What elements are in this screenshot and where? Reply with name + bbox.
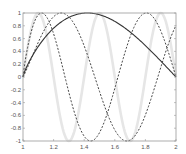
x-tick-label: 1.2 [49, 144, 58, 150]
y-tick-label: -1 [16, 138, 22, 144]
series-solid-dark [23, 13, 176, 77]
line-chart: 11.21.41.61.82 -1-0.8-0.6-0.4-0.200.20.4… [0, 0, 186, 154]
y-tick-label: 0.6 [13, 36, 22, 42]
y-tick-label: 1 [18, 10, 22, 16]
y-tick-label: 0.2 [13, 61, 22, 67]
y-tick-label: -0.6 [11, 112, 22, 118]
y-tick-label: 0 [18, 74, 22, 80]
plot-curves [23, 13, 176, 141]
series-light-thick [23, 13, 176, 141]
x-tick-label: 1.8 [141, 144, 150, 150]
x-tick-label: 1.6 [111, 144, 120, 150]
y-tick-label: 0.8 [13, 23, 22, 29]
x-tick-label: 1.4 [80, 144, 89, 150]
x-tick-label: 2 [174, 144, 178, 150]
y-tick-label: -0.4 [11, 100, 22, 106]
x-tick-label: 1 [21, 144, 25, 150]
y-tick-label: 0.4 [13, 48, 22, 54]
y-tick-label: -0.2 [11, 87, 22, 93]
y-tick-label: -0.8 [11, 125, 22, 131]
